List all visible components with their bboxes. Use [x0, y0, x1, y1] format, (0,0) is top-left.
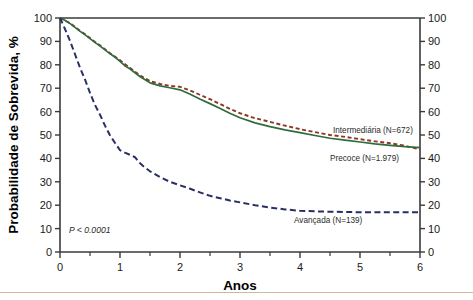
x-ticklabel: 0 [57, 261, 63, 273]
y-ticklabel-right: 10 [428, 223, 440, 235]
y-ticklabel-left: 60 [40, 106, 52, 118]
x-ticklabel: 3 [237, 261, 243, 273]
y-ticklabel-right: 30 [428, 176, 440, 188]
x-ticklabel: 6 [417, 261, 423, 273]
y-ticklabel-left: 30 [40, 176, 52, 188]
y-ticklabel-left: 40 [40, 152, 52, 164]
y-ticklabel-left: 90 [40, 35, 52, 47]
y-ticklabel-left: 0 [46, 246, 52, 258]
x-ticklabel: 1 [117, 261, 123, 273]
survival-chart: 0010102020303040405050606070708080909010… [0, 0, 473, 300]
y-ticklabel-right: 50 [428, 129, 440, 141]
y-ticklabel-left: 100 [34, 12, 52, 24]
x-ticklabel: 5 [357, 261, 363, 273]
p-value-annotation: P < 0.0001 [69, 225, 111, 235]
y-ticklabel-right: 0 [428, 246, 434, 258]
y-ticklabel-left: 70 [40, 82, 52, 94]
x-ticklabel: 2 [177, 261, 183, 273]
footer-rule [0, 292, 473, 293]
y-ticklabel-left: 20 [40, 199, 52, 211]
y-ticklabel-left: 10 [40, 223, 52, 235]
y-ticklabel-left: 80 [40, 59, 52, 71]
curve-label-precoce: Precoce (N=1.979) [330, 154, 399, 163]
y-ticklabel-right: 100 [428, 12, 446, 24]
y-ticklabel-right: 70 [428, 82, 440, 94]
y-axis-title: Probabilidade de Sobrevida, % [6, 36, 21, 233]
y-ticklabel-right: 40 [428, 152, 440, 164]
y-ticklabel-right: 90 [428, 35, 440, 47]
curve-label-avancada: Avançada (N=139) [294, 216, 363, 225]
y-ticklabel-right: 80 [428, 59, 440, 71]
y-ticklabel-left: 50 [40, 129, 52, 141]
x-ticklabel: 4 [297, 261, 303, 273]
curve-label-intermediaria: Intermediária (N=672) [333, 126, 413, 135]
y-ticklabel-right: 60 [428, 106, 440, 118]
x-axis-title: Anos [223, 278, 257, 293]
y-ticklabel-right: 20 [428, 199, 440, 211]
